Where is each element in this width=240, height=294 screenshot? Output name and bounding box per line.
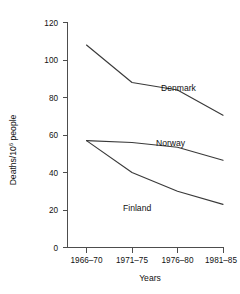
y-tick-label-40: 40 <box>49 169 59 178</box>
y-axis-title-tail: people <box>8 114 18 142</box>
series-label-denmark: Denmark <box>161 83 197 93</box>
y-tick-label-20: 20 <box>49 206 59 215</box>
y-tick-label-120: 120 <box>44 19 58 28</box>
chart-background <box>0 0 240 294</box>
y-tick-label-0: 0 <box>53 244 58 253</box>
line-chart: 120 100 80 60 40 20 0 1966–70 1971–75 19… <box>0 0 240 294</box>
x-axis-title: Years <box>139 273 161 283</box>
chart-canvas: 120 100 80 60 40 20 0 1966–70 1971–75 19… <box>0 0 240 294</box>
series-label-norway: Norway <box>156 138 186 148</box>
y-tick-label-100: 100 <box>44 56 58 65</box>
y-tick-label-60: 60 <box>49 131 59 140</box>
series-label-finland: Finland <box>123 203 151 213</box>
x-tick-label-1976-80: 1976–80 <box>162 256 194 265</box>
y-axis-title-base: Deaths/10 <box>8 146 18 185</box>
x-tick-label-1966-70: 1966–70 <box>71 256 103 265</box>
y-axis-title: Deaths/106 people <box>8 114 18 185</box>
x-tick-label-1971-75: 1971–75 <box>116 256 148 265</box>
x-tick-label-1981-85: 1981–85 <box>205 256 237 265</box>
y-tick-label-80: 80 <box>49 94 59 103</box>
y-axis-title-text: Deaths/106 people <box>8 114 18 185</box>
